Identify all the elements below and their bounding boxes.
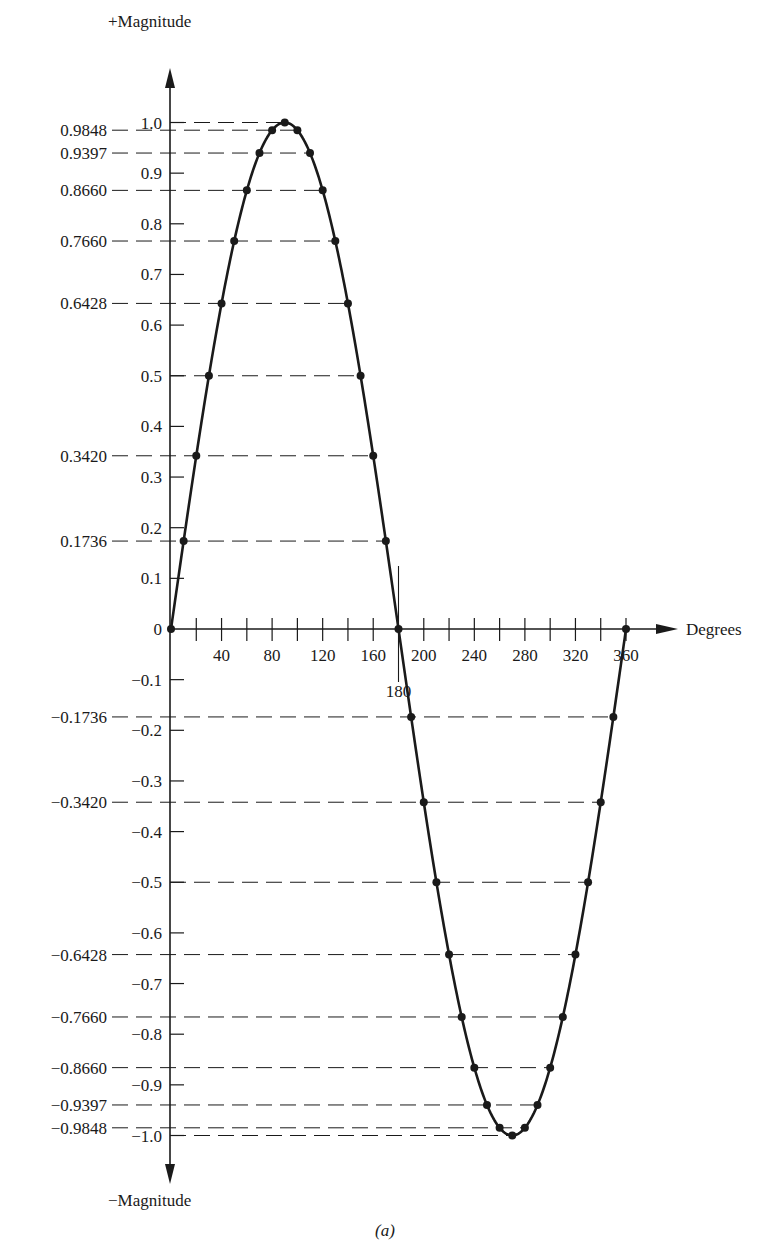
- y-tick-label: 0: [154, 620, 163, 639]
- y-axis-bottom-title: −Magnitude: [108, 1191, 191, 1210]
- x-tick-label: 320: [563, 646, 589, 665]
- data-point: [407, 713, 415, 721]
- reference-level-label: 0.9848: [60, 121, 107, 140]
- data-point: [609, 713, 617, 721]
- data-point: [306, 149, 314, 157]
- reference-level-label: −0.1736: [51, 708, 107, 727]
- x-tick-label: 240: [462, 646, 488, 665]
- x-tick-label: 80: [264, 646, 281, 665]
- y-tick-label: −0.4: [131, 823, 162, 842]
- reference-level-label: −0.6428: [51, 946, 107, 965]
- reference-level-label: 0.7660: [60, 232, 107, 251]
- data-point: [622, 625, 630, 633]
- data-point: [369, 452, 377, 460]
- y-tick-label: −0.5: [131, 873, 162, 892]
- data-point: [559, 1013, 567, 1021]
- data-point: [521, 1124, 529, 1132]
- y-tick-label: 0.5: [141, 367, 162, 386]
- y-tick-label: 0.7: [141, 265, 163, 284]
- y-tick-label: 0.4: [141, 417, 163, 436]
- y-axis-top-title: +Magnitude: [108, 12, 191, 31]
- reference-level-label: 0.3420: [60, 447, 107, 466]
- data-point: [470, 1064, 478, 1072]
- data-point: [597, 798, 605, 806]
- data-point: [331, 237, 339, 245]
- data-point: [571, 951, 579, 959]
- data-point: [534, 1101, 542, 1109]
- data-point: [243, 186, 251, 194]
- data-point: [357, 372, 365, 380]
- y-tick-label: −0.2: [131, 721, 162, 740]
- data-point: [293, 126, 301, 134]
- y-tick-label: 1.0: [141, 114, 162, 133]
- y-axis-up-arrow-icon: [165, 68, 175, 88]
- reference-level-label: 0.6428: [60, 294, 107, 313]
- data-point: [584, 878, 592, 886]
- reference-level-label: −0.9848: [51, 1119, 107, 1138]
- y-tick-label: 0.8: [141, 215, 162, 234]
- x-tick-label: 40: [213, 646, 230, 665]
- data-point: [180, 537, 188, 545]
- y-tick-label: −0.6: [131, 924, 162, 943]
- y-tick-label: −0.1: [131, 671, 162, 690]
- x-tick-label: 160: [360, 646, 386, 665]
- y-tick-label: 0.9: [141, 164, 162, 183]
- data-point: [281, 119, 289, 127]
- data-point: [192, 452, 200, 460]
- data-point: [382, 537, 390, 545]
- reference-level-label: −0.3420: [51, 793, 107, 812]
- data-point: [432, 878, 440, 886]
- data-point: [508, 1132, 516, 1140]
- data-point: [458, 1013, 466, 1021]
- y-tick-label: −0.9: [131, 1076, 162, 1095]
- x-axis-title: Degrees: [686, 620, 742, 639]
- y-tick-label: 0.3: [141, 468, 162, 487]
- y-tick-label: −0.7: [131, 975, 162, 994]
- reference-level-label: 0.9397: [60, 144, 107, 163]
- y-tick-label: −1.0: [131, 1127, 162, 1146]
- data-point: [167, 625, 175, 633]
- y-tick-label: 0.6: [141, 316, 162, 335]
- data-point: [420, 798, 428, 806]
- x-tick-label: 200: [411, 646, 437, 665]
- data-point: [395, 625, 403, 633]
- x-tick-label: 120: [310, 646, 336, 665]
- reference-level-label: −0.7660: [51, 1008, 107, 1027]
- data-point: [205, 372, 213, 380]
- y-tick-label: −0.3: [131, 772, 162, 791]
- data-point: [344, 299, 352, 307]
- sine-wave-chart: 18040801201602002402803203601.00.90.80.7…: [0, 0, 771, 1251]
- data-point: [319, 186, 327, 194]
- x-marker-180-label: 180: [386, 682, 412, 701]
- data-point: [496, 1124, 504, 1132]
- data-point: [230, 237, 238, 245]
- x-tick-label: 280: [512, 646, 538, 665]
- data-point: [445, 951, 453, 959]
- data-point: [483, 1101, 491, 1109]
- y-tick-label: −0.8: [131, 1025, 162, 1044]
- x-axis-right-arrow-icon: [656, 624, 678, 634]
- data-point: [255, 149, 263, 157]
- figure-caption: (a): [375, 1221, 395, 1240]
- reference-level-label: −0.8660: [51, 1059, 107, 1078]
- y-tick-label: 0.2: [141, 519, 162, 538]
- reference-level-label: 0.1736: [60, 532, 107, 551]
- x-tick-label: 360: [613, 646, 639, 665]
- data-point: [546, 1064, 554, 1072]
- reference-level-label: 0.8660: [60, 181, 107, 200]
- reference-level-label: −0.9397: [51, 1096, 108, 1115]
- y-tick-label: 0.1: [141, 569, 162, 588]
- y-axis-down-arrow-icon: [165, 1164, 175, 1184]
- data-point: [268, 126, 276, 134]
- data-point: [218, 299, 226, 307]
